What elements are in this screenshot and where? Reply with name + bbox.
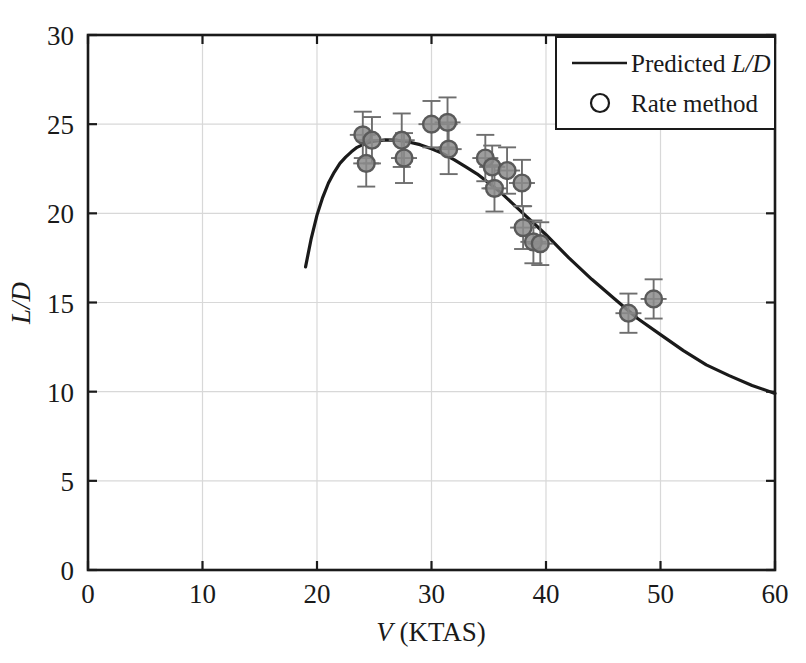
x-tick-label: 0 bbox=[81, 579, 95, 609]
data-point-marker bbox=[645, 291, 662, 308]
legend-label-rate-method: Rate method bbox=[631, 90, 759, 117]
x-tick-label: 60 bbox=[762, 579, 789, 609]
data-point-marker bbox=[486, 180, 503, 197]
data-point-marker bbox=[393, 132, 410, 149]
x-axis-title: V (KTAS) bbox=[376, 617, 486, 647]
data-point-marker bbox=[440, 141, 457, 158]
y-tick-label: 15 bbox=[47, 289, 74, 319]
y-tick-label: 30 bbox=[47, 21, 74, 51]
data-point-marker bbox=[532, 235, 549, 252]
y-tick-label: 20 bbox=[47, 199, 74, 229]
legend-label-predicted: Predicted L/D bbox=[631, 50, 771, 77]
x-tick-label: 20 bbox=[304, 579, 331, 609]
x-tick-label: 50 bbox=[647, 579, 674, 609]
data-point-marker bbox=[358, 155, 375, 172]
y-tick-label: 0 bbox=[61, 556, 75, 586]
x-tick-label: 30 bbox=[418, 579, 445, 609]
chart-canvas: 0102030405060 051015202530 V (KTAS) L/D … bbox=[0, 0, 806, 663]
x-tick-label: 10 bbox=[189, 579, 216, 609]
svg-text:L/D: L/D bbox=[6, 281, 36, 325]
data-point-marker bbox=[423, 116, 440, 133]
svg-text:V (KTAS): V (KTAS) bbox=[376, 617, 486, 647]
data-point-marker bbox=[620, 305, 637, 322]
data-point-marker bbox=[514, 175, 531, 192]
y-tick-label: 10 bbox=[47, 378, 74, 408]
y-tick-label: 5 bbox=[61, 467, 75, 497]
data-point-marker bbox=[364, 132, 381, 149]
y-axis-title: L/D bbox=[6, 281, 36, 325]
x-tick-label: 40 bbox=[533, 579, 560, 609]
chart-legend: Predicted L/D Rate method bbox=[556, 37, 775, 129]
figure-container: 0102030405060 051015202530 V (KTAS) L/D … bbox=[0, 0, 806, 663]
y-tick-label: 25 bbox=[47, 110, 74, 140]
data-point-marker bbox=[499, 162, 516, 179]
data-point-marker bbox=[439, 114, 456, 131]
data-point-marker bbox=[396, 150, 413, 167]
